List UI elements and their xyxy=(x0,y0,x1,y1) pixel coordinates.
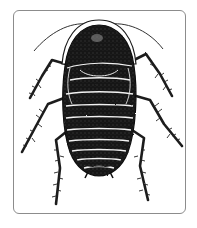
left-front-leg xyxy=(30,60,66,98)
right-hind-leg xyxy=(132,130,148,200)
body-shell xyxy=(63,25,136,176)
cockroach-body xyxy=(62,20,136,178)
left-hind-leg xyxy=(56,132,66,204)
right-front-leg xyxy=(134,54,172,96)
cockroach-illustration xyxy=(0,0,197,228)
pronotum-highlight xyxy=(91,34,103,42)
